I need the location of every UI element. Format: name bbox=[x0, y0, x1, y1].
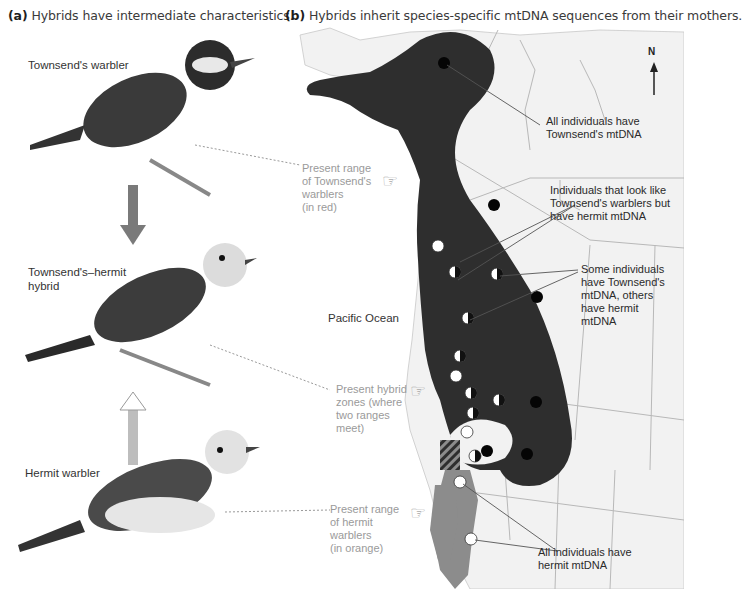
callout-line: warblers bbox=[330, 529, 399, 542]
note-line: have hermit mtDNA bbox=[550, 210, 670, 223]
pointing-hand-icon: ☞ bbox=[382, 170, 398, 192]
hybrid-label-line2: hybrid bbox=[28, 279, 126, 293]
callout-line: of hermit bbox=[330, 516, 399, 529]
hybrid-label-line1: Townsend's–hermit bbox=[28, 265, 126, 279]
callout-line: meet) bbox=[336, 422, 407, 435]
pointing-hand-icon: ☞ bbox=[410, 380, 426, 402]
note-line: Townsend's warblers but bbox=[550, 197, 670, 210]
callout-line: (in red) bbox=[302, 201, 371, 214]
note-line: mtDNA bbox=[581, 315, 665, 328]
hermit-warbler-illustration bbox=[18, 430, 260, 552]
callout-line: of Townsend's bbox=[302, 175, 371, 188]
callout-hermit-range: Present range of hermit warblers (in ora… bbox=[330, 503, 399, 555]
note-line: hermit mtDNA bbox=[538, 559, 632, 572]
note-line: have hermit bbox=[581, 302, 665, 315]
hermit-warbler-label: Hermit warbler bbox=[25, 466, 100, 480]
callout-line: Present hybrid bbox=[336, 383, 407, 396]
note-all-townsend: All individuals have Townsend's mtDNA bbox=[546, 115, 642, 141]
ocean-label: Pacific Ocean bbox=[328, 312, 399, 324]
callout-hybrid-zones: Present hybrid zones (where two ranges m… bbox=[336, 383, 407, 435]
note-mixed-mtdna: Some individuals have Townsend's mtDNA, … bbox=[581, 263, 665, 328]
callout-townsend-range: Present range of Townsend's warblers (in… bbox=[302, 162, 371, 214]
up-arrow-icon bbox=[120, 392, 146, 465]
callout-line: Present range bbox=[302, 162, 371, 175]
note-line: Individuals that look like bbox=[550, 184, 670, 197]
note-line: All individuals have bbox=[546, 115, 642, 128]
note-line: Townsend's mtDNA bbox=[546, 128, 642, 141]
note-look-townsend-hermit-mtdna: Individuals that look like Townsend's wa… bbox=[550, 184, 670, 223]
callout-line: zones (where bbox=[336, 396, 407, 409]
compass-north-label: N bbox=[648, 46, 655, 57]
callout-line: warblers bbox=[302, 188, 371, 201]
pointing-hand-icon: ☞ bbox=[410, 502, 426, 524]
note-line: have Townsend's bbox=[581, 276, 665, 289]
note-all-hermit: All individuals have hermit mtDNA bbox=[538, 546, 632, 572]
callout-line: Present range bbox=[330, 503, 399, 516]
townsends-warbler-label: Townsend's warbler bbox=[28, 58, 129, 72]
callout-line: two ranges bbox=[336, 409, 407, 422]
down-arrow-icon bbox=[120, 185, 146, 245]
note-line: Some individuals bbox=[581, 263, 665, 276]
note-line: mtDNA, others bbox=[581, 289, 665, 302]
hybrid-label: Townsend's–hermit hybrid bbox=[28, 265, 126, 293]
callout-line: (in orange) bbox=[330, 542, 399, 555]
note-line: All individuals have bbox=[538, 546, 632, 559]
